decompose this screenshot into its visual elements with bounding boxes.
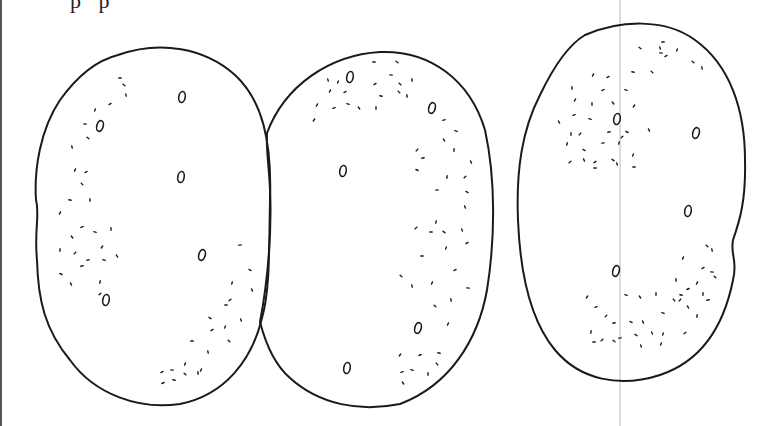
- dot-mark: [328, 79, 329, 81]
- dot-mark: [665, 55, 667, 56]
- dot-mark: [109, 103, 111, 104]
- dot-mark: [683, 257, 684, 259]
- loop-mark: [684, 205, 692, 217]
- dot-mark: [679, 299, 681, 301]
- dot-mark: [677, 49, 678, 51]
- dot-mark: [574, 99, 575, 101]
- dot-mark: [702, 267, 704, 268]
- oval-right-outline: [518, 24, 745, 381]
- dot-mark: [613, 340, 615, 341]
- oval-left-marks: [59, 78, 252, 383]
- dot-mark: [462, 229, 463, 231]
- loop-mark: [413, 322, 422, 334]
- dot-mark: [639, 296, 640, 298]
- dot-mark: [443, 120, 445, 121]
- dot-mark: [344, 91, 346, 92]
- dot-mark: [116, 255, 117, 257]
- dot-mark: [625, 295, 627, 296]
- dot-mark: [396, 61, 398, 62]
- dot-mark: [635, 334, 637, 335]
- dot-mark: [94, 232, 96, 233]
- dot-mark: [630, 321, 632, 322]
- dot-mark: [162, 383, 164, 384]
- dot-mark: [712, 249, 713, 251]
- dot-mark: [583, 149, 585, 150]
- dot-mark: [436, 363, 438, 365]
- dot-mark: [185, 363, 186, 365]
- dot-mark: [211, 329, 213, 330]
- loop-mark: [197, 249, 206, 261]
- dot-mark: [71, 236, 72, 238]
- dot-mark: [621, 136, 623, 138]
- dot-mark: [74, 252, 76, 254]
- dot-mark: [592, 74, 593, 76]
- oval-right-marks: [558, 42, 716, 347]
- dot-mark: [584, 159, 585, 161]
- dot-mark: [602, 90, 604, 91]
- dot-mark: [639, 47, 641, 48]
- dot-mark: [573, 115, 575, 116]
- dot-mark: [607, 76, 609, 77]
- dot-mark: [329, 90, 330, 92]
- dot-mark: [470, 161, 471, 163]
- dot-mark: [434, 305, 436, 307]
- loop-mark: [178, 91, 186, 103]
- dot-mark: [225, 326, 226, 328]
- dot-mark: [200, 369, 201, 371]
- dot-mark: [432, 282, 433, 284]
- dot-mark: [81, 227, 83, 228]
- dot-mark: [558, 121, 559, 123]
- dot-mark: [595, 307, 597, 308]
- dot-mark: [74, 169, 75, 171]
- loop-mark: [427, 102, 436, 114]
- dot-mark: [680, 295, 682, 296]
- dot-mark: [455, 131, 457, 132]
- dot-mark: [612, 102, 613, 104]
- dot-mark: [316, 104, 317, 106]
- dot-mark: [126, 94, 127, 96]
- dot-mark: [70, 283, 71, 285]
- dot-mark: [347, 104, 349, 105]
- dot-mark: [692, 61, 694, 63]
- loop-mark: [611, 265, 620, 277]
- dot-mark: [605, 315, 607, 317]
- dot-mark: [648, 129, 649, 131]
- loop-mark: [177, 171, 185, 183]
- dot-mark: [651, 71, 653, 73]
- loop-mark: [691, 127, 700, 139]
- dot-mark: [619, 142, 620, 144]
- dot-mark: [586, 296, 587, 298]
- dot-mark: [338, 81, 339, 83]
- dot-mark: [398, 91, 400, 93]
- dot-mark: [661, 343, 662, 345]
- dot-mark: [399, 83, 401, 85]
- dot-mark: [594, 161, 596, 162]
- oval-left-outline: [36, 48, 271, 406]
- dot-mark: [249, 269, 251, 270]
- dot-mark: [464, 176, 466, 178]
- dot-mark: [714, 276, 716, 278]
- dot-mark: [465, 206, 466, 208]
- sketch-canvas: [0, 0, 767, 426]
- dot-mark: [706, 245, 708, 247]
- dot-mark: [184, 373, 186, 375]
- dot-mark: [663, 333, 664, 335]
- dot-mark: [401, 372, 403, 373]
- dot-mark: [60, 273, 62, 274]
- dot-mark: [103, 260, 105, 261]
- dot-mark: [447, 323, 448, 325]
- dot-mark: [660, 47, 661, 49]
- dot-mark: [229, 299, 231, 301]
- dot-mark: [411, 370, 413, 371]
- dot-mark: [99, 293, 101, 295]
- dot-mark: [601, 339, 603, 341]
- dot-mark: [313, 119, 314, 121]
- dot-mark: [696, 282, 697, 284]
- loop-mark: [102, 294, 110, 306]
- loop-mark: [343, 362, 351, 374]
- dot-mark: [101, 246, 102, 248]
- dot-mark: [333, 108, 335, 109]
- dot-mark: [416, 149, 418, 151]
- dot-mark: [684, 332, 686, 333]
- dot-mark: [633, 154, 634, 156]
